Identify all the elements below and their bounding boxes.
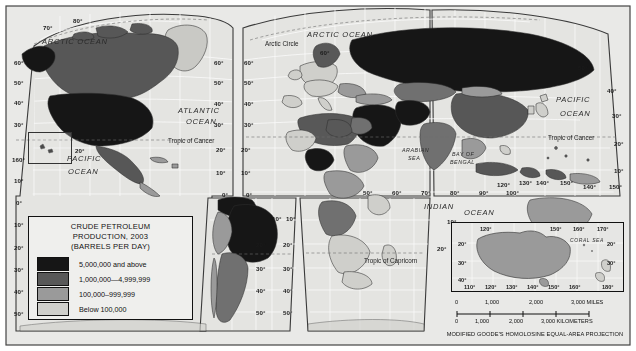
inset-longitude-label: 140° [527, 284, 539, 290]
graticule-label: 40° [244, 101, 254, 107]
graticule-label: 60° [244, 60, 254, 66]
graticule-label: 20° [437, 246, 447, 252]
inset-latitude-label: 20° [607, 241, 615, 247]
inset-map-graphic [452, 223, 624, 292]
graticule-label: 80° [450, 190, 460, 196]
graticule-label: 10° [14, 222, 24, 228]
legend-title: CRUDE PETROLEUM PRODUCTION, 2003 (BARREL… [29, 222, 192, 253]
scale-kilometers-label: 1,000 [475, 318, 489, 324]
legend-row: Below 100,000 [37, 302, 192, 317]
legend-title-line-2: PRODUCTION, 2003 [29, 232, 192, 242]
graticule-label: 20° [14, 245, 24, 251]
graticule-label: 0° [222, 192, 228, 198]
graticule-label: 30° [283, 266, 293, 272]
graticule-label: 20° [614, 141, 624, 147]
pacific-ocean-left-label: PACIFIC [67, 155, 101, 163]
hawaii-inset-box [28, 132, 72, 164]
inset-latitude-label: 30° [607, 260, 615, 266]
legend-title-line-1: CRUDE PETROLEUM [29, 222, 192, 232]
graticule-label: 30° [256, 266, 266, 272]
graticule-label: 40° [607, 88, 617, 94]
graticule-label: 40° [256, 288, 266, 294]
graticule-label: 160° [12, 157, 25, 163]
scale-kilometers-label: 2,000 [509, 318, 523, 324]
scale-miles-label: 2,000 [529, 299, 543, 305]
inset-longitude-label: 180° [602, 284, 614, 290]
inset-longitude-label: 120° [485, 284, 497, 290]
indian-ocean-2-label: OCEAN [464, 209, 495, 217]
graticule-label: 30° [14, 122, 24, 128]
atlantic-ocean-2-label: OCEAN [186, 118, 217, 126]
legend-row: 5,000,000 and above [37, 257, 192, 272]
graticule-label: 70° [43, 25, 53, 31]
bay-of-bengal-label: BAY OF [452, 152, 474, 157]
inset-latitude-label: 20° [458, 241, 466, 247]
graticule-label: 0° [16, 200, 22, 206]
inset-latitude-label: 40° [458, 277, 466, 283]
graticule-label: 50° [283, 310, 293, 316]
legend-label: 100,000–999,999 [79, 290, 135, 299]
tropic-of-cancer-right-label: Tropic of Cancer [548, 135, 594, 141]
graticule-label: 40° [283, 288, 293, 294]
graticule-label: 30° [244, 122, 254, 128]
scale-miles-label: 0 [455, 299, 458, 305]
graticule-label: 20° [256, 242, 266, 248]
legend-items: 5,000,000 and above1,000,000—4,999,99910… [29, 257, 192, 317]
graticule-label: 70° [421, 190, 431, 196]
graticule-label: 150° [609, 184, 622, 190]
inset-longitude-label: 160° [573, 226, 585, 232]
graticule-label: 10° [286, 216, 296, 222]
graticule-label: 60° [14, 60, 24, 66]
graticule-label: 20° [216, 147, 226, 153]
graticule-label: 10° [272, 216, 282, 222]
graticule-label: 10° [614, 168, 624, 174]
graticule-label: 20° [283, 242, 293, 248]
arabian-sea-2-label: SEA [408, 156, 420, 161]
legend-row: 1,000,000—4,999,999 [37, 272, 192, 287]
graticule-label: 50° [256, 310, 266, 316]
legend-swatch [37, 287, 69, 301]
graticule-label: 60° [214, 60, 224, 66]
scale-miles-label: 1,000 [485, 299, 499, 305]
graticule-label: 60° [392, 190, 402, 196]
graticule-label: 100° [506, 190, 519, 196]
graticule-label: 10° [241, 170, 251, 176]
legend-row: 100,000–999,999 [37, 287, 192, 302]
graticule-label: 50° [14, 80, 24, 86]
graticule-label: 130° [519, 180, 532, 186]
legend-label: 5,000,000 and above [79, 260, 147, 269]
scale-kilometers-row: 01,0002,0003,000 KILOMETERS [449, 318, 629, 329]
map-legend: CRUDE PETROLEUM PRODUCTION, 2003 (BARREL… [28, 216, 193, 320]
graticule-label: 30° [14, 267, 24, 273]
inset-longitude-label: 130° [506, 284, 518, 290]
australia-inset-map: 120°150°160°170°20°30°40°20°30°110°120°1… [451, 222, 624, 292]
inset-longitude-label: 160° [569, 284, 581, 290]
arctic-ocean-center-label: ARCTIC OCEAN [307, 31, 373, 39]
legend-swatch [37, 272, 69, 286]
atlantic-ocean-label: ATLANTIC [178, 107, 220, 115]
legend-label: 1,000,000—4,999,999 [79, 275, 150, 284]
legend-swatch [37, 257, 69, 271]
graticule-label: 20° [241, 147, 251, 153]
graticule-label: 0° [246, 192, 252, 198]
scale-bar-graphic [449, 310, 629, 318]
graticule-label: 140° [536, 180, 549, 186]
indian-ocean-label: INDIAN [424, 203, 454, 211]
scale-bars: 01,0002,0003,000 MILES 01,0002,0003,000 … [449, 299, 629, 329]
graticule-label: 150° [560, 180, 573, 186]
graticule-label: 90° [479, 190, 489, 196]
legend-label: Below 100,000 [79, 305, 127, 314]
pacific-ocean-right-2-label: OCEAN [560, 110, 591, 118]
coral-sea-label: CORAL SEA [570, 237, 604, 243]
graticule-label: 50° [363, 190, 373, 196]
bay-of-bengal-2-label: BENGAL [450, 160, 475, 165]
scale-miles-label: 3,000 MILES [571, 299, 603, 305]
graticule-label: 80° [73, 18, 83, 24]
pacific-ocean-right-label: PACIFIC [556, 96, 590, 104]
graticule-label: 120° [497, 182, 510, 188]
pacific-ocean-left-2-label: OCEAN [68, 168, 99, 176]
crude-petroleum-production-map: 70°80°60°50°40°30°20°160°10°0°10°20°30°4… [0, 0, 636, 351]
graticule-label: 50° [14, 311, 24, 317]
arctic-ocean-left-label: ARCTIC OCEAN [42, 38, 108, 46]
graticule-label: 10° [216, 170, 226, 176]
